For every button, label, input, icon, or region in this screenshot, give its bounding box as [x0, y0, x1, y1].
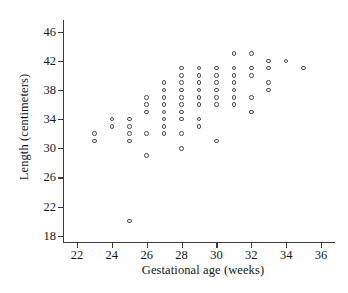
y-tick-mark	[58, 207, 63, 208]
x-axis-line	[63, 242, 335, 243]
x-tick-label: 30	[210, 248, 223, 263]
data-point	[232, 51, 237, 56]
y-tick-label: 46	[44, 24, 57, 39]
data-point	[197, 88, 202, 93]
data-point	[197, 73, 202, 78]
data-point	[162, 110, 167, 115]
data-point	[197, 102, 202, 107]
data-point	[214, 102, 219, 107]
x-tick-label: 32	[245, 248, 258, 263]
data-point	[197, 117, 202, 122]
data-point	[197, 124, 202, 129]
data-point	[179, 146, 184, 151]
data-point	[144, 153, 149, 158]
data-point	[179, 80, 184, 85]
data-point	[214, 66, 219, 71]
y-tick-mark	[58, 61, 63, 62]
data-point	[249, 66, 254, 71]
data-point	[284, 59, 289, 64]
x-tick-label: 26	[140, 248, 153, 263]
x-tick-label: 34	[280, 248, 293, 263]
data-point	[214, 80, 219, 85]
data-point	[162, 95, 167, 100]
data-point	[232, 66, 237, 71]
data-point	[266, 88, 271, 93]
data-point	[266, 80, 271, 85]
data-point	[92, 131, 97, 136]
y-tick-mark	[58, 177, 63, 178]
data-point	[162, 124, 167, 129]
data-point	[179, 102, 184, 107]
data-point	[162, 88, 167, 93]
data-point	[249, 110, 254, 115]
data-point	[110, 124, 115, 129]
data-point	[179, 73, 184, 78]
data-point	[266, 59, 271, 64]
x-axis-title: Gestational age (weeks)	[63, 263, 343, 278]
x-tick-label: 22	[71, 248, 84, 263]
data-point	[127, 219, 132, 224]
data-point	[144, 131, 149, 136]
y-tick-label: 22	[44, 199, 57, 214]
y-tick-label: 30	[44, 141, 57, 156]
y-axis-title: Length (centimeters)	[14, 12, 34, 242]
data-point	[232, 95, 237, 100]
data-point	[179, 66, 184, 71]
data-point	[144, 110, 149, 115]
data-point	[179, 95, 184, 100]
y-tick-mark	[58, 236, 63, 237]
data-point	[197, 95, 202, 100]
data-point	[214, 139, 219, 144]
data-point	[214, 95, 219, 100]
data-point	[92, 139, 97, 144]
y-tick-mark	[58, 119, 63, 120]
data-point	[249, 73, 254, 78]
scatter-plot-figure: Length (centimeters) Gestational age (we…	[0, 0, 348, 293]
data-point	[266, 66, 271, 71]
data-point	[162, 102, 167, 107]
data-point	[232, 80, 237, 85]
x-tick-label: 36	[315, 248, 328, 263]
data-point	[179, 110, 184, 115]
data-point	[162, 117, 167, 122]
y-tick-label: 42	[44, 53, 57, 68]
y-tick-mark	[58, 90, 63, 91]
data-point	[179, 88, 184, 93]
x-tick-label: 28	[175, 248, 188, 263]
x-tick-label: 24	[106, 248, 119, 263]
data-point	[249, 95, 254, 100]
data-point	[179, 117, 184, 122]
data-point	[214, 88, 219, 93]
y-axis-line	[63, 20, 64, 243]
y-tick-mark	[58, 148, 63, 149]
data-point	[249, 51, 254, 56]
data-point	[301, 66, 306, 71]
plot-area: 1822263034384246 2224262830323436	[63, 20, 335, 243]
data-point	[127, 139, 132, 144]
data-point	[232, 102, 237, 107]
y-tick-label: 34	[44, 112, 57, 127]
y-tick-mark	[58, 32, 63, 33]
data-point	[197, 80, 202, 85]
data-point	[127, 131, 132, 136]
data-point	[144, 102, 149, 107]
data-point	[110, 117, 115, 122]
data-point	[162, 80, 167, 85]
data-point	[127, 124, 132, 129]
data-point	[162, 131, 167, 136]
data-point	[127, 117, 132, 122]
y-tick-label: 18	[44, 228, 57, 243]
data-point	[214, 73, 219, 78]
data-point	[179, 131, 184, 136]
y-tick-label: 38	[44, 82, 57, 97]
data-point	[197, 66, 202, 71]
data-point	[232, 73, 237, 78]
data-point	[144, 95, 149, 100]
y-tick-label: 26	[44, 170, 57, 185]
data-point	[232, 88, 237, 93]
